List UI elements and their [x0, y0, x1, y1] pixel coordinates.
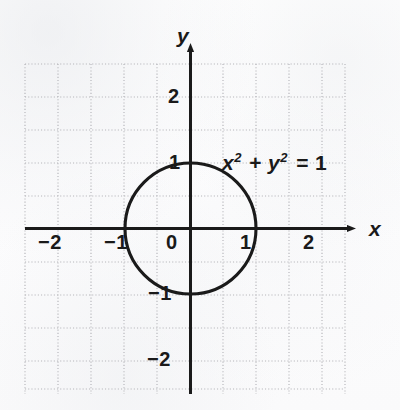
equation-plus-operator: +: [249, 151, 262, 174]
equation-annotation: x2+y2=1: [222, 152, 327, 173]
equation-y-exponent: 2: [280, 150, 288, 165]
x-axis-label: x: [369, 218, 381, 239]
y-axis-label: y: [177, 25, 189, 46]
y-tick-label-1: 1: [169, 152, 181, 172]
x-tick-label-1: 1: [240, 232, 252, 252]
graph-figure: −2 −1 0 1 2 2 1 −1 −2 y x x2+y2=1: [0, 0, 400, 410]
x-tick-label-minus2: −2: [38, 232, 62, 252]
coordinate-plane-svg: [0, 0, 400, 410]
equation-right-hand-side: 1: [315, 151, 327, 174]
equation-x-exponent: 2: [234, 150, 242, 165]
y-tick-label-minus1: −1: [148, 283, 172, 303]
equation-equals-operator: =: [296, 151, 309, 174]
y-tick-label-2: 2: [168, 86, 180, 106]
y-tick-label-minus2: −2: [147, 349, 171, 369]
equation-x-var: x: [222, 151, 234, 174]
x-tick-label-2: 2: [303, 232, 315, 252]
equation-y-var: y: [268, 151, 280, 174]
origin-label: 0: [166, 232, 178, 252]
x-tick-label-minus1: −1: [104, 232, 128, 252]
